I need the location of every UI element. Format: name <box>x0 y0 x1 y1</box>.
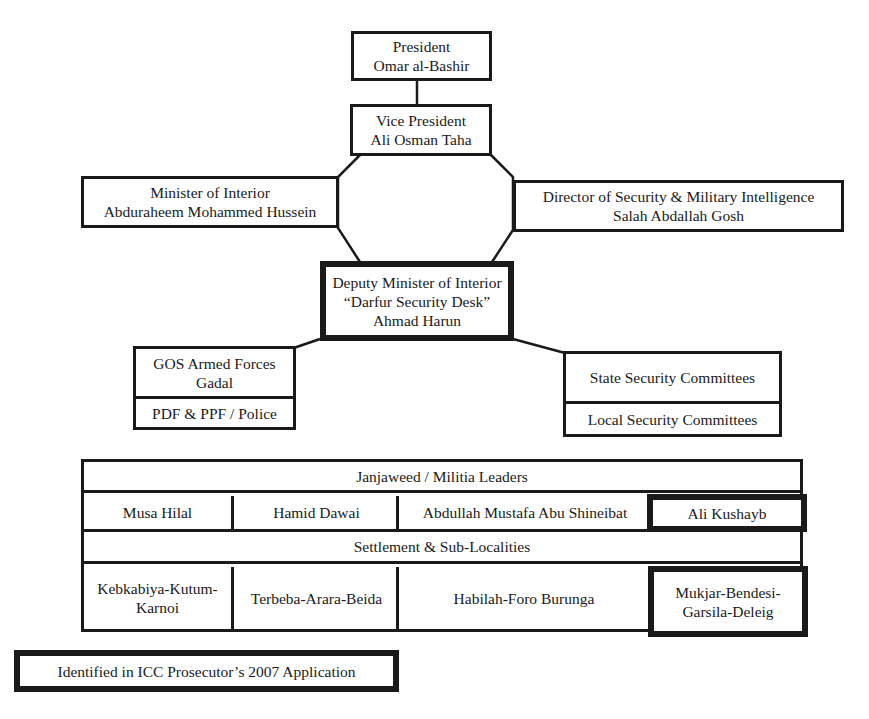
settlement-cell-identified: Mukjar-Bendesi- Garsila-Deleig <box>648 566 808 637</box>
president-title: President <box>393 37 451 56</box>
leader-cell: Abdullah Mustafa Abu Shineibat <box>399 496 651 529</box>
state-committee-cell: State Security Committees <box>566 354 779 404</box>
police-cell: PDF & PPF / Police <box>136 399 293 427</box>
deputy-minister-box: Deputy Minister of Interior “Darfur Secu… <box>320 261 514 341</box>
director-security-title: Director of Security & Military Intellig… <box>543 187 815 206</box>
leader-cell: Musa Hilal <box>84 496 234 529</box>
settlement-line: Kebkabiya-Kutum- <box>97 579 218 598</box>
minister-interior-box: Minister of Interior Abduraheem Mohammed… <box>81 176 339 228</box>
vice-president-name: Ali Osman Taha <box>370 130 471 149</box>
settlement-cell: Kebkabiya-Kutum- Karnoi <box>84 567 234 629</box>
settlement-header-label: Settlement & Sub-Localities <box>354 537 531 556</box>
leader-name: Abdullah Mustafa Abu Shineibat <box>423 503 628 522</box>
settlement-line: Garsila-Deleig <box>682 602 773 621</box>
settlement-header: Settlement & Sub-Localities <box>84 532 800 564</box>
leader-name: Hamid Dawai <box>273 503 360 522</box>
minister-interior-name: Abduraheem Mohammed Hussein <box>104 202 317 221</box>
settlement-line: Terbeba-Arara-Beida <box>251 589 382 608</box>
settlement-line: Karnoi <box>136 598 179 617</box>
leader-cell-identified: Ali Kushayb <box>647 494 807 532</box>
president-box: President Omar al-Bashir <box>351 31 492 81</box>
committees-box: State Security Committees Local Security… <box>563 351 782 437</box>
settlement-line: Mukjar-Bendesi- <box>675 583 781 602</box>
leader-name: Musa Hilal <box>123 503 192 522</box>
vice-president-box: Vice President Ali Osman Taha <box>350 104 492 156</box>
militia-header-label: Janjaweed / Militia Leaders <box>356 467 528 486</box>
settlement-cell: Terbeba-Arara-Beida <box>237 567 399 629</box>
director-security-name: Salah Abdallah Gosh <box>613 206 744 225</box>
militia-header: Janjaweed / Militia Leaders <box>84 462 800 493</box>
leader-name: Ali Kushayb <box>688 504 767 523</box>
legend-box: Identified in ICC Prosecutor’s 2007 Appl… <box>14 650 399 692</box>
minister-interior-title: Minister of Interior <box>150 183 270 202</box>
deputy-minister-title: Deputy Minister of Interior <box>332 273 501 292</box>
armed-forces-cell: GOS Armed Forces Gadal <box>136 349 293 399</box>
deputy-minister-subtitle: “Darfur Security Desk” <box>344 292 490 311</box>
president-name: Omar al-Bashir <box>374 56 470 75</box>
local-committee-cell: Local Security Committees <box>566 404 779 434</box>
armed-forces-box: GOS Armed Forces Gadal PDF & PPF / Polic… <box>133 346 296 430</box>
local-committee-label: Local Security Committees <box>588 410 758 429</box>
state-committee-label: State Security Committees <box>590 368 755 387</box>
deputy-minister-name: Ahmad Harun <box>373 311 461 330</box>
armed-forces-title: GOS Armed Forces <box>153 354 275 373</box>
armed-forces-name: Gadal <box>196 373 233 392</box>
settlement-cell: Habilah-Foro Burunga <box>399 567 649 629</box>
vice-president-title: Vice President <box>376 111 466 130</box>
settlement-line: Habilah-Foro Burunga <box>454 589 595 608</box>
director-security-box: Director of Security & Military Intellig… <box>513 180 844 232</box>
legend-label: Identified in ICC Prosecutor’s 2007 Appl… <box>57 662 355 681</box>
leader-cell: Hamid Dawai <box>237 496 399 529</box>
police-label: PDF & PPF / Police <box>152 404 277 423</box>
